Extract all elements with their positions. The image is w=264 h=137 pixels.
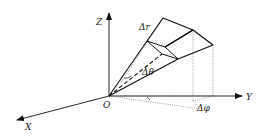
spherical-coordinates-diagram: Z Y X O Δr Δθ Δφ	[0, 0, 264, 137]
volume-element	[147, 18, 213, 59]
projection-lines	[109, 18, 213, 109]
delta-phi-label: Δφ	[196, 103, 210, 113]
delta-r-label: Δr	[138, 22, 150, 32]
theta-arc	[124, 76, 131, 78]
delta-theta-label: Δθ	[141, 67, 154, 77]
x-axis	[17, 96, 109, 120]
y-axis-label: Y	[246, 92, 253, 102]
origin-label: O	[103, 100, 111, 110]
x-axis-label: X	[24, 122, 32, 132]
z-axis-label: Z	[95, 17, 103, 27]
phi-arc	[147, 97, 150, 100]
